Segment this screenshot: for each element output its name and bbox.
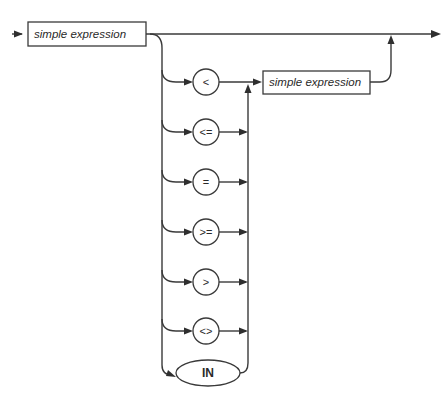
simple-expression-label: simple expression: [34, 28, 126, 40]
operator-ge: >=: [193, 219, 219, 245]
operator-ne: <>: [193, 318, 219, 344]
svg-text:IN: IN: [202, 366, 214, 380]
main-line: [146, 30, 441, 38]
entry-arrow: [12, 31, 23, 38]
svg-text:>=: >=: [200, 226, 213, 238]
left-branch-line: [150, 34, 172, 375]
simple-expression-box-start: simple expression: [28, 22, 146, 46]
operator-gt: >: [193, 269, 219, 295]
svg-text:>: >: [203, 276, 209, 288]
operator-outputs: [219, 79, 262, 335]
operator-lt: <: [193, 69, 219, 95]
simple-expression-label: simple expression: [269, 76, 361, 88]
svg-text:=: =: [203, 176, 209, 188]
syntax-diagram: simple expression < <= = >=: [0, 0, 445, 409]
operator-eq: =: [193, 169, 219, 195]
svg-text:<: <: [203, 76, 209, 88]
simple-expression-box-end: simple expression: [263, 71, 370, 94]
return-line: [370, 35, 395, 82]
svg-text:<>: <>: [200, 325, 213, 337]
branch-curves: [162, 70, 193, 377]
svg-text:<=: <=: [200, 126, 213, 138]
operator-le: <=: [193, 119, 219, 145]
keyword-in: IN: [176, 360, 240, 386]
